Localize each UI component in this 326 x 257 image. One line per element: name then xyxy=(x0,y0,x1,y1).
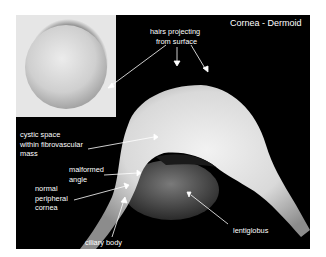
label-ciliary-body: ciliary body xyxy=(85,238,122,248)
figure-title: Cornea - Dermoid xyxy=(230,18,302,28)
label-line: mass xyxy=(20,149,83,159)
label-line: angle xyxy=(69,175,104,185)
label-lentiglobus: lentiglobus xyxy=(233,226,268,236)
label-line: normal xyxy=(35,184,68,194)
label-normal-peripheral-cornea: normal peripheral cornea xyxy=(35,184,68,213)
label-line: cornea xyxy=(35,203,68,213)
label-line: cystic space xyxy=(20,130,83,140)
label-line: hairs projecting xyxy=(150,27,200,37)
label-line: from surface xyxy=(150,37,200,47)
label-malformed-angle: malformed angle xyxy=(69,165,104,184)
label-line: peripheral xyxy=(35,194,68,204)
label-line: malformed xyxy=(69,165,104,175)
label-cystic-space: cystic space within fibrovascular mass xyxy=(20,130,83,159)
histology-photo: Cornea - Dermoid hairs projecting from s… xyxy=(16,15,310,249)
label-line: within fibrovascular xyxy=(20,140,83,150)
label-hairs-projecting: hairs projecting from surface xyxy=(150,27,200,46)
